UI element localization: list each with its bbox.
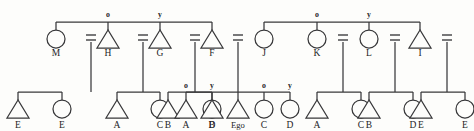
person-a-g2-6-male-triangle-icon[interactable] <box>175 100 197 118</box>
connector-lines-layer <box>18 22 465 100</box>
person-c-g2-12-label: C <box>358 120 364 130</box>
person-a-g2-2-male-triangle-icon[interactable] <box>106 100 128 118</box>
person-f-g1-3-male-triangle-icon[interactable] <box>201 30 223 48</box>
person-b-g2-13-label: B <box>366 120 372 130</box>
person-k-g1-1-label: K <box>314 48 321 58</box>
person-b-g2-4-label: B <box>165 120 171 130</box>
person-e-g2-0-male-triangle-icon[interactable] <box>7 100 29 118</box>
kinship-diagram-canvas: MHoGyFJKoLyIEEACBDAoByEgoCoDyACBDEE <box>0 0 474 131</box>
person-k-g1-1-birth-order-marker: o <box>315 10 319 19</box>
person-a-g2-6-label: A <box>183 120 190 130</box>
person-ego-g2-8-label: Ego <box>231 120 245 130</box>
person-c-g2-9-label: C <box>261 120 267 130</box>
person-e-g2-16-label: E <box>462 120 468 130</box>
person-e-g2-1-female-circle-icon[interactable] <box>53 100 71 118</box>
person-g-g1-2-birth-order-marker: y <box>158 10 162 19</box>
person-ego-g2-8-male-triangle-icon[interactable] <box>227 100 249 118</box>
person-a-g2-11-male-triangle-icon[interactable] <box>306 100 328 118</box>
person-j-g1-0-label: J <box>262 48 266 58</box>
person-k-g1-1-female-circle-icon[interactable] <box>308 30 326 48</box>
person-e-g2-16-female-circle-icon[interactable] <box>456 100 474 118</box>
person-d-g2-10-birth-order-marker: y <box>288 81 292 90</box>
person-a-g2-2-label: A <box>114 120 121 130</box>
person-symbols-layer <box>7 30 474 118</box>
person-b-g2-7-birth-order-marker: y <box>210 81 214 90</box>
person-i-g1-3-male-triangle-icon[interactable] <box>409 30 431 48</box>
person-i-g1-3-label: I <box>418 48 421 58</box>
kinship-diagram: MHoGyFJKoLyIEEACBDAoByEgoCoDyACBDEE <box>0 0 474 131</box>
person-h-g1-1-label: H <box>105 48 112 58</box>
person-a-g2-11-label: A <box>314 120 321 130</box>
person-e-g2-0-label: E <box>15 120 21 130</box>
person-d-g2-10-female-circle-icon[interactable] <box>281 100 299 118</box>
person-e-g2-1-label: E <box>59 120 65 130</box>
person-m-g1-0-female-circle-icon[interactable] <box>47 30 65 48</box>
person-j-g1-0-female-circle-icon[interactable] <box>255 30 273 48</box>
person-b-g2-7-label: B <box>209 120 215 130</box>
person-d-g2-10-label: D <box>287 120 294 130</box>
person-m-g1-0-label: M <box>52 48 61 58</box>
person-c-g2-9-female-circle-icon[interactable] <box>255 100 273 118</box>
person-f-g1-3-label: F <box>209 48 214 58</box>
person-a-g2-6-birth-order-marker: o <box>184 81 188 90</box>
person-g-g1-2-male-triangle-icon[interactable] <box>149 30 171 48</box>
person-c-g2-9-birth-order-marker: o <box>262 81 266 90</box>
person-g-g1-2-label: G <box>157 48 164 58</box>
person-d-g2-14-label: D <box>410 120 417 130</box>
person-l-g1-2-birth-order-marker: y <box>367 10 371 19</box>
person-c-g2-3-label: C <box>157 120 163 130</box>
person-h-g1-1-birth-order-marker: o <box>106 10 110 19</box>
person-l-g1-2-female-circle-icon[interactable] <box>360 30 378 48</box>
person-h-g1-1-male-triangle-icon[interactable] <box>97 30 119 48</box>
person-l-g1-2-label: L <box>366 48 372 58</box>
person-e-g2-15-label: E <box>418 120 424 130</box>
